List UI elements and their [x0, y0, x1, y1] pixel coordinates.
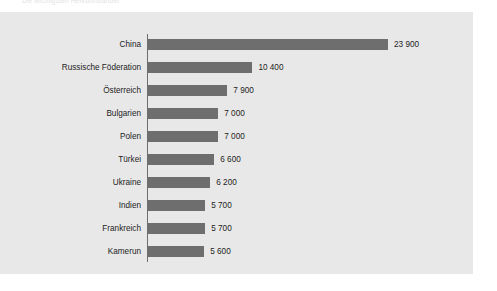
bar — [148, 62, 252, 73]
bar-rows: China23 900Russische Föderation10 400Öst… — [0, 38, 473, 268]
bar — [148, 154, 214, 165]
value-label: 6 600 — [220, 153, 241, 166]
category-label: Österreich — [0, 84, 141, 97]
bar-row: Ukraine6 200 — [0, 176, 473, 199]
value-label: 7 000 — [224, 130, 245, 143]
value-label: 5 700 — [211, 199, 232, 212]
bar-row: Bulgarien7 000 — [0, 107, 473, 130]
bar — [148, 223, 205, 234]
value-label: 7 000 — [224, 107, 245, 120]
category-label: Ukraine — [0, 176, 141, 189]
bar-row: Türkei6 600 — [0, 153, 473, 176]
value-label: 23 900 — [394, 38, 419, 51]
bar — [148, 177, 210, 188]
category-label: Russische Föderation — [0, 61, 141, 74]
value-label: 6 200 — [216, 176, 237, 189]
bar — [148, 200, 205, 211]
chart-panel: China23 900Russische Föderation10 400Öst… — [0, 12, 473, 274]
category-label: Kamerun — [0, 245, 141, 258]
category-label: Polen — [0, 130, 141, 143]
value-label: 10 400 — [258, 61, 283, 74]
bar-row: Polen7 000 — [0, 130, 473, 153]
bar — [148, 85, 227, 96]
value-label: 5 600 — [210, 245, 231, 258]
bar-row: Kamerun5 600 — [0, 245, 473, 268]
category-label: Indien — [0, 199, 141, 212]
bar-row: Indien5 700 — [0, 199, 473, 222]
bar-row: China23 900 — [0, 38, 473, 61]
category-label: Türkei — [0, 153, 141, 166]
category-label: China — [0, 38, 141, 51]
value-label: 5 700 — [211, 222, 232, 235]
bar-row: Frankreich5 700 — [0, 222, 473, 245]
bar-row: Österreich7 900 — [0, 84, 473, 107]
plot-area: China23 900Russische Föderation10 400Öst… — [0, 12, 473, 274]
bar — [148, 131, 218, 142]
value-label: 7 900 — [233, 84, 254, 97]
bar — [148, 108, 218, 119]
bar-row: Russische Föderation10 400 — [0, 61, 473, 84]
chart-screenshot: Die wichtigsten Herkunftslander China23 … — [0, 0, 497, 291]
bar — [148, 246, 204, 257]
top-caption: Die wichtigsten Herkunftslander — [22, 0, 120, 5]
category-label: Frankreich — [0, 222, 141, 235]
bar — [148, 39, 388, 50]
category-label: Bulgarien — [0, 107, 141, 120]
